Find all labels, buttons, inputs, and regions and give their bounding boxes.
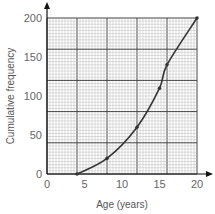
svg-text:10: 10	[116, 178, 128, 190]
svg-text:5: 5	[81, 178, 87, 190]
svg-text:20: 20	[191, 178, 203, 190]
grid	[47, 18, 197, 174]
x-axis-label: Age (years)	[96, 199, 148, 210]
cumulative-frequency-chart: 05101520050100150200 Age (years) Cumulat…	[0, 0, 215, 214]
svg-text:150: 150	[24, 51, 42, 63]
y-axis-label: Cumulative frequency	[5, 48, 16, 145]
svg-text:0: 0	[36, 168, 42, 180]
svg-text:15: 15	[153, 178, 165, 190]
svg-text:200: 200	[24, 12, 42, 24]
svg-text:50: 50	[30, 129, 42, 141]
svg-text:0: 0	[44, 178, 50, 190]
svg-text:100: 100	[24, 90, 42, 102]
